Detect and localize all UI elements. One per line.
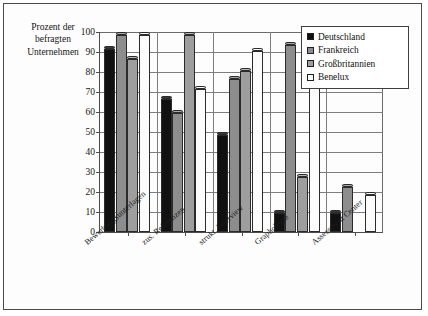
legend-label: Deutschland bbox=[318, 32, 365, 42]
bar-cap bbox=[342, 184, 353, 187]
bar-group bbox=[217, 32, 263, 232]
legend-swatch bbox=[307, 47, 314, 54]
bar bbox=[252, 48, 263, 232]
bar-cap bbox=[365, 192, 376, 195]
chart-frame: Prozent der befragten Unternehmen 010203… bbox=[3, 3, 422, 310]
x-axis-tick-mark bbox=[355, 232, 356, 236]
chart-legend: DeutschlandFrankreichGroßbritannienBenel… bbox=[301, 26, 409, 89]
bar-cap bbox=[252, 48, 263, 51]
bar-body bbox=[184, 35, 195, 232]
bar-cap bbox=[116, 32, 127, 35]
bar-body bbox=[365, 195, 376, 232]
x-axis-tick-mark bbox=[242, 232, 243, 236]
legend-label: Frankreich bbox=[318, 45, 359, 55]
y-axis-tick-label: 60 bbox=[86, 107, 96, 117]
y-axis-tick-label: 70 bbox=[86, 87, 96, 97]
y-axis-tick-label: 10 bbox=[86, 207, 96, 217]
bar-body bbox=[104, 49, 115, 232]
y-axis-tick-label: 40 bbox=[86, 147, 96, 157]
x-axis-tick-mark bbox=[298, 232, 299, 236]
x-axis-tick-mark bbox=[128, 232, 129, 236]
legend-swatch bbox=[307, 74, 314, 81]
bar bbox=[139, 32, 150, 232]
bar-body bbox=[252, 51, 263, 232]
y-axis-tick-label: 90 bbox=[86, 47, 96, 57]
bar-cap bbox=[104, 46, 115, 49]
legend-label: Benelux bbox=[318, 72, 349, 82]
bar bbox=[184, 32, 195, 232]
group-separator bbox=[270, 32, 271, 232]
bar bbox=[161, 96, 172, 232]
group-separator bbox=[213, 32, 214, 232]
legend-item-0[interactable]: Deutschland bbox=[307, 30, 403, 44]
bar bbox=[195, 86, 206, 232]
bar-body bbox=[161, 99, 172, 232]
bar-cap bbox=[172, 110, 183, 113]
legend-label: Großbritannien bbox=[318, 59, 375, 69]
y-axis-tick-label: 80 bbox=[86, 67, 96, 77]
bar-body bbox=[195, 89, 206, 232]
y-axis-tick-label: 20 bbox=[86, 187, 96, 197]
group-separator bbox=[157, 32, 158, 232]
bar-body bbox=[139, 35, 150, 232]
legend-item-2[interactable]: Großbritannien bbox=[307, 57, 403, 71]
y-axis-title-line-3: Unternehmen bbox=[14, 46, 92, 58]
bar-group bbox=[161, 32, 207, 232]
bar bbox=[297, 174, 308, 232]
bar-cap bbox=[229, 76, 240, 79]
bar-cap bbox=[217, 132, 228, 135]
bar-cap bbox=[139, 32, 150, 35]
bar-cap bbox=[127, 56, 138, 59]
y-axis-tick-label: 100 bbox=[81, 27, 95, 37]
legend-swatch bbox=[307, 33, 314, 40]
bar-cap bbox=[297, 174, 308, 177]
bar-cap bbox=[161, 96, 172, 99]
bar-body bbox=[297, 177, 308, 232]
legend-swatch bbox=[307, 60, 314, 67]
bar bbox=[309, 84, 320, 232]
y-axis-tick-label: 50 bbox=[86, 127, 96, 137]
bar bbox=[285, 42, 296, 232]
bar-body bbox=[285, 45, 296, 232]
legend-item-1[interactable]: Frankreich bbox=[307, 44, 403, 58]
y-axis-tick-label: 30 bbox=[86, 167, 96, 177]
bar-body bbox=[309, 87, 320, 232]
bar bbox=[365, 192, 376, 232]
bar bbox=[104, 46, 115, 232]
x-axis-tick-mark bbox=[185, 232, 186, 236]
legend-item-3[interactable]: Benelux bbox=[307, 71, 403, 85]
bar-cap bbox=[184, 32, 195, 35]
